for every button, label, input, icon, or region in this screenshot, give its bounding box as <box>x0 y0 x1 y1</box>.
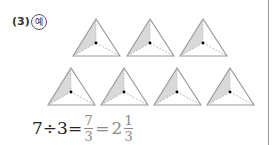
example-badge: 예 <box>31 14 47 30</box>
denominator: 3 <box>84 130 92 143</box>
equation: 7÷3= 7 3 = 2 1 3 <box>32 112 135 144</box>
equals-sign: = <box>95 118 109 138</box>
triangle-figure <box>72 18 121 58</box>
triangle-figure <box>206 67 255 107</box>
triangle-figure <box>47 67 96 107</box>
equation-answer: 7 3 = 2 1 3 <box>82 114 135 143</box>
numerator: 1 <box>125 114 133 127</box>
triangle-figure <box>153 67 202 107</box>
fraction-mixed-part: 1 3 <box>124 114 133 143</box>
equation-lhs: 7÷3= <box>32 118 82 138</box>
triangle-figure <box>100 67 149 107</box>
problem-number: (3) <box>12 15 30 28</box>
whole-number: 2 <box>111 118 122 138</box>
numerator: 7 <box>84 114 92 127</box>
denominator: 3 <box>125 130 133 143</box>
triangle-figure <box>126 18 175 58</box>
divider-line <box>268 0 269 145</box>
triangle-figure <box>179 18 228 58</box>
fraction-improper: 7 3 <box>84 114 93 143</box>
